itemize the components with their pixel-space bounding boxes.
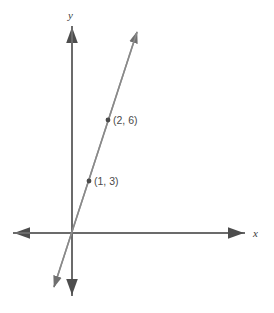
line-lower-ray bbox=[54, 32, 137, 287]
point-2-6-marker bbox=[106, 118, 111, 123]
point-1-3-group: (1, 3) bbox=[87, 175, 119, 187]
point-2-6-label: (2, 6) bbox=[113, 114, 138, 126]
y-axis-label: y bbox=[67, 9, 73, 21]
point-1-3-label: (1, 3) bbox=[94, 175, 119, 187]
coordinate-plane-figure: (2, 6) (1, 3) y x bbox=[0, 0, 274, 313]
plotted-line bbox=[54, 32, 137, 287]
x-axis-label: x bbox=[252, 227, 258, 239]
point-1-3-marker bbox=[87, 179, 92, 184]
graph-svg: (2, 6) (1, 3) y x bbox=[0, 0, 274, 313]
